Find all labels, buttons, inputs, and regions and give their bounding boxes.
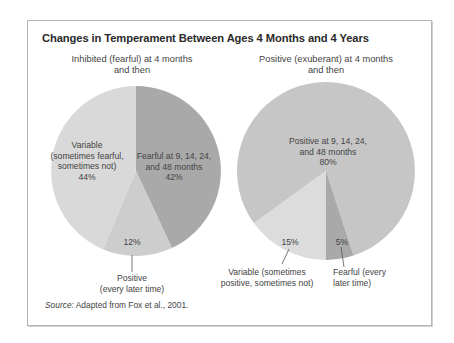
- right-pie: [237, 82, 415, 267]
- right-fearful-label: Fearful (every later time): [333, 267, 393, 288]
- left-variable-pct: 44%: [42, 172, 132, 183]
- source-label: Source:: [45, 300, 74, 310]
- right-positive-pct: 80%: [283, 157, 373, 168]
- source-note: Source: Adapted from Fox et al., 2001.: [45, 300, 188, 310]
- right-variable-pct: 15%: [275, 237, 305, 248]
- left-positive-pct: 12%: [117, 237, 147, 248]
- left-variable-label-line3: sometimes not): [42, 161, 132, 172]
- source-text: Adapted from Fox et al., 2001.: [74, 300, 189, 310]
- right-variable-label: Variable (sometimes positive, sometimes …: [212, 267, 322, 288]
- right-positive-label-line1: Positive at 9, 14, 24,: [283, 136, 373, 147]
- right-fearful-label-line1: Fearful (every: [333, 267, 393, 278]
- right-fearful-label-line2: later time): [333, 278, 393, 289]
- left-fearful-label-line2: and 48 months: [135, 162, 213, 173]
- left-variable-label-line1: Variable: [42, 140, 132, 151]
- right-variable-label-line2: positive, sometimes not): [212, 278, 322, 289]
- right-positive-label: Positive at 9, 14, 24, and 48 months 80%: [283, 136, 373, 168]
- left-positive-label: Positive (every later time): [87, 273, 177, 294]
- left-fearful-label: Fearful at 9, 14, 24, and 48 months 42%: [135, 151, 213, 183]
- left-fearful-label-line1: Fearful at 9, 14, 24,: [135, 151, 213, 162]
- left-positive-label-line2: (every later time): [87, 284, 177, 295]
- right-positive-label-line2: and 48 months: [283, 147, 373, 158]
- right-variable-label-line1: Variable (sometimes: [212, 267, 322, 278]
- right-fearful-pct: 5%: [330, 237, 354, 248]
- left-positive-label-line1: Positive: [87, 273, 177, 284]
- left-variable-label-line2: (sometimes fearful,: [42, 151, 132, 162]
- left-variable-label: Variable (sometimes fearful, sometimes n…: [42, 140, 132, 182]
- right-variable-leader-line: [282, 249, 289, 264]
- left-fearful-pct: 42%: [135, 172, 213, 183]
